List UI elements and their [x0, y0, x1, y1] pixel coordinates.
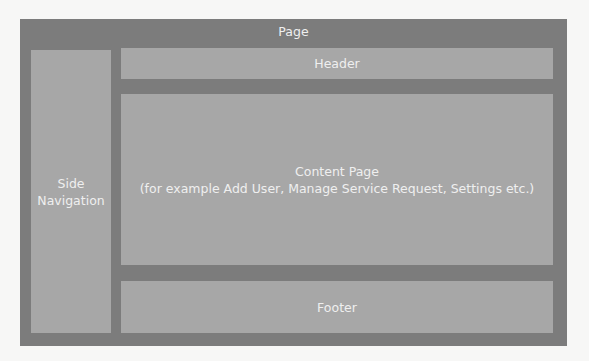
content-title: Content Page	[140, 163, 535, 180]
page-label: Page	[20, 24, 567, 39]
page-container: Page Side Navigation Header Content Page…	[20, 19, 567, 346]
content-page-region: Content Page (for example Add User, Mana…	[121, 94, 553, 265]
header-region: Header	[121, 48, 553, 79]
footer-label: Footer	[317, 299, 357, 316]
side-navigation-region: Side Navigation	[31, 50, 111, 333]
side-nav-label-line2: Navigation	[37, 192, 104, 209]
content-subtitle: (for example Add User, Manage Service Re…	[140, 180, 535, 197]
footer-region: Footer	[121, 281, 553, 333]
side-nav-label-line1: Side	[37, 175, 104, 192]
header-label: Header	[314, 55, 360, 72]
